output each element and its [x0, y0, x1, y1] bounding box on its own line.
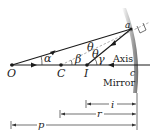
- arc-beta: [71, 60, 72, 65]
- dim-r-arrow-left: [61, 113, 65, 116]
- label-mirror: Mirror: [103, 77, 136, 88]
- arc-alpha: [41, 56, 42, 65]
- mirror-ray-diagram: O C I c a α β θ θ γ Axis Mirror i r p: [0, 0, 158, 135]
- dim-r-arrow-right: [132, 113, 136, 116]
- label-beta: β: [74, 53, 81, 66]
- right-angle-marker: [137, 23, 146, 33]
- dim-p-arrow-right: [132, 124, 136, 127]
- dim-i-arrow-left: [87, 103, 91, 106]
- label-O: O: [7, 67, 16, 80]
- label-a: a: [125, 20, 130, 30]
- label-gamma: γ: [98, 53, 105, 66]
- label-p: p: [38, 119, 45, 130]
- arrow-axis-right: [31, 63, 37, 68]
- label-i: i: [111, 99, 114, 110]
- label-I: I: [83, 67, 89, 80]
- dim-p-arrow-left: [12, 124, 16, 127]
- dim-i-arrow-right: [132, 103, 136, 106]
- label-alpha: α: [44, 52, 52, 65]
- label-axis: Axis: [112, 53, 133, 64]
- label-C: C: [57, 67, 66, 80]
- arrow-reflected: [110, 40, 116, 46]
